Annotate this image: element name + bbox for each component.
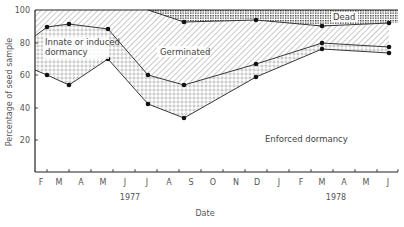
svg-text:A: A	[341, 178, 347, 187]
svg-text:N: N	[233, 178, 239, 187]
x-month-labels: F M A M J J A S O N D J F M A M J	[39, 178, 389, 187]
innate-label-line1: Innate or induced	[45, 37, 120, 47]
svg-text:M: M	[363, 178, 370, 187]
svg-text:F: F	[39, 178, 44, 187]
y-axis-label: Percentage of seed sample	[5, 38, 14, 147]
year-1978: 1978	[326, 193, 346, 202]
innate-label-line2: dormancy	[45, 47, 88, 57]
svg-text:A: A	[166, 178, 172, 187]
y-tick-60: 60	[20, 71, 30, 80]
svg-text:O: O	[210, 178, 216, 187]
svg-text:J: J	[277, 178, 280, 187]
chart: 100 80 60 40 20 F M A M J J A S O N D J …	[0, 0, 404, 227]
enforced-label: Enforced dormancy	[265, 134, 348, 144]
y-tick-20: 20	[20, 136, 30, 145]
svg-text:F: F	[299, 178, 304, 187]
y-tick-40: 40	[20, 104, 30, 113]
svg-text:J: J	[123, 178, 126, 187]
x-axis-label: Date	[195, 209, 214, 218]
svg-text:J: J	[386, 178, 389, 187]
germinated-label: Germinated	[160, 47, 210, 57]
svg-text:M: M	[100, 178, 107, 187]
year-1977: 1977	[120, 193, 140, 202]
svg-text:S: S	[188, 178, 193, 187]
svg-text:D: D	[254, 178, 260, 187]
y-tick-80: 80	[20, 39, 30, 48]
svg-text:M: M	[319, 178, 326, 187]
svg-text:A: A	[78, 178, 84, 187]
svg-text:J: J	[145, 178, 148, 187]
dead-label: Dead	[333, 12, 355, 22]
svg-text:M: M	[56, 178, 63, 187]
y-tick-100: 100	[15, 6, 30, 15]
